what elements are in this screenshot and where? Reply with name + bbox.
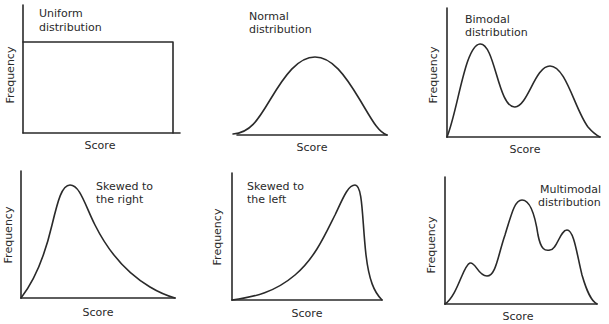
distribution-curve bbox=[23, 42, 173, 133]
x-axis-label: Score bbox=[503, 310, 534, 323]
y-axis-label: Frequency bbox=[427, 46, 440, 103]
panel-title-line-1: Skewed to bbox=[247, 180, 304, 193]
panel-title-line-2: distribution bbox=[538, 196, 601, 209]
panel-title-line-2: distribution bbox=[39, 21, 102, 34]
panel-title-line-1: Multimodal bbox=[540, 183, 601, 196]
panel-title-line-1: Uniform bbox=[39, 7, 83, 20]
panel-title-line-1: Skewed to bbox=[96, 180, 153, 193]
panel-title-line-2: distribution bbox=[465, 26, 528, 39]
distribution-curve bbox=[447, 44, 600, 137]
panel-skewed-left: Skewed to the left Score Frequency bbox=[211, 173, 382, 320]
x-axis-label: Score bbox=[292, 307, 323, 320]
x-axis-label: Score bbox=[85, 139, 116, 152]
y-axis-label: Frequency bbox=[4, 46, 17, 103]
panel-uniform: Uniform distribution Score Frequency bbox=[4, 5, 180, 152]
distribution-curve bbox=[445, 200, 597, 304]
panel-title-line-1: Bimodal bbox=[465, 13, 510, 26]
panel-title-line-2: the right bbox=[96, 193, 144, 206]
distribution-curve bbox=[233, 57, 387, 135]
panel-bimodal: Bimodal distribution Score Frequency bbox=[427, 8, 600, 156]
x-axis-label: Score bbox=[510, 143, 541, 156]
y-axis-label: Frequency bbox=[425, 216, 438, 273]
panel-title-line-2: distribution bbox=[249, 23, 312, 36]
panel-normal: Normal distribution Score bbox=[233, 10, 387, 154]
y-axis-label: Frequency bbox=[2, 206, 15, 263]
distribution-shapes-figure: Uniform distribution Score Frequency Nor… bbox=[0, 0, 609, 324]
x-axis-label: Score bbox=[83, 306, 114, 319]
x-axis-label: Score bbox=[297, 141, 328, 154]
panel-multimodal: Multimodal distribution Score Frequency bbox=[425, 177, 601, 323]
panel-title-line-2: the left bbox=[247, 193, 287, 206]
panel-title-line-1: Normal bbox=[249, 10, 289, 23]
panel-skewed-right: Skewed to the right Score Frequency bbox=[2, 171, 175, 319]
y-axis-label: Frequency bbox=[211, 208, 224, 265]
